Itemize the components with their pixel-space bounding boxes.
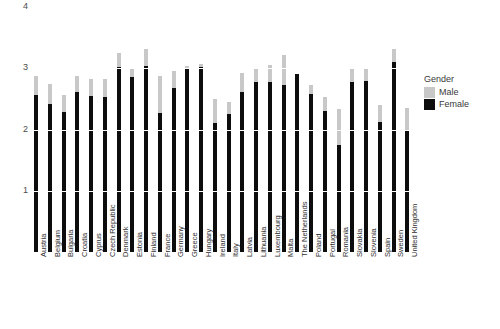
x-tick-label: Hungary	[205, 229, 213, 257]
x-tick-label: Sweden	[397, 230, 405, 257]
x-tick-label: Greece	[191, 232, 199, 257]
x-tick-label: Spain	[384, 238, 392, 257]
x-tick-label: Austria	[40, 234, 48, 257]
legend-item-male: Male	[424, 87, 496, 98]
x-tick-label: Slovenia	[370, 228, 378, 257]
bar-female	[227, 114, 231, 252]
bar-female	[364, 81, 368, 253]
legend-swatch-female	[424, 99, 435, 110]
y-tick-label: 3	[6, 63, 28, 72]
x-tick-label: Bulgaria	[67, 229, 75, 257]
x-tick-label: Luxembourg	[274, 215, 282, 257]
legend-label-male: Male	[439, 87, 459, 98]
x-tick-label: Portugal	[329, 229, 337, 257]
bar-female	[48, 104, 52, 252]
legend-title: Gender	[424, 74, 496, 84]
bar-female	[350, 82, 354, 252]
legend: Gender Male Female	[424, 74, 496, 111]
bar-female	[117, 67, 121, 252]
bar-female	[337, 145, 341, 252]
bar-female	[309, 94, 313, 252]
plot-area	[30, 7, 415, 252]
x-axis-labels: AustriaBelgiumBulgariaCroatiaCyprusCzech…	[30, 255, 415, 329]
bar-female	[185, 68, 189, 252]
gridline	[30, 130, 415, 131]
x-tick-label: Romania	[342, 227, 350, 257]
bar-female	[199, 67, 203, 252]
x-tick-label: Germany	[177, 226, 185, 257]
gender-bar-chart: 1234 AustriaBelgiumBulgariaCroatiaCyprus…	[0, 0, 500, 329]
bar-female	[34, 95, 38, 252]
bar-female	[254, 82, 258, 252]
bar-female	[213, 123, 217, 252]
bar-female	[144, 66, 148, 252]
x-tick-label: Denmark	[122, 227, 130, 257]
bar-female	[158, 113, 162, 252]
x-tick-label: Latvia	[246, 237, 254, 257]
bar-female	[240, 92, 244, 252]
gridline	[30, 191, 415, 192]
x-tick-label: United Kingdom	[411, 204, 419, 257]
x-tick-label: Cyprus	[95, 233, 103, 257]
y-tick-label: 1	[6, 186, 28, 195]
gridline	[30, 68, 415, 69]
legend-swatch-male	[424, 87, 435, 98]
x-tick-label: Finland	[150, 232, 158, 257]
bar-female	[89, 96, 93, 252]
x-tick-label: Belgium	[54, 230, 62, 257]
x-tick-label: Ireland	[219, 234, 227, 257]
legend-label-female: Female	[439, 99, 469, 110]
legend-item-female: Female	[424, 99, 496, 110]
x-tick-label: Czech Republic	[109, 204, 117, 257]
bar-female	[392, 62, 396, 252]
bar-female	[103, 97, 107, 252]
y-axis: 1234	[0, 0, 28, 329]
bar-female	[323, 111, 327, 252]
bar-female	[172, 88, 176, 252]
bar-female	[62, 112, 66, 252]
bar-female	[130, 77, 134, 252]
y-tick-label: 2	[6, 125, 28, 134]
bar-female	[282, 85, 286, 252]
x-tick-label: Italy	[232, 243, 240, 257]
x-tick-label: Malta	[287, 239, 295, 257]
bar-female	[75, 92, 79, 252]
bar-female	[295, 74, 299, 252]
x-tick-label: Poland	[315, 234, 323, 257]
x-tick-label: France	[164, 234, 172, 257]
x-tick-label: Croatia	[81, 233, 89, 257]
x-tick-label: Slovakia	[356, 229, 364, 257]
y-tick-label: 4	[6, 2, 28, 11]
x-tick-label: Estonia	[136, 232, 144, 257]
x-tick-label: The Netherlands	[301, 202, 309, 257]
x-tick-label: Lithuania	[260, 227, 268, 257]
bar-female	[268, 82, 272, 252]
bar-female	[378, 122, 382, 252]
